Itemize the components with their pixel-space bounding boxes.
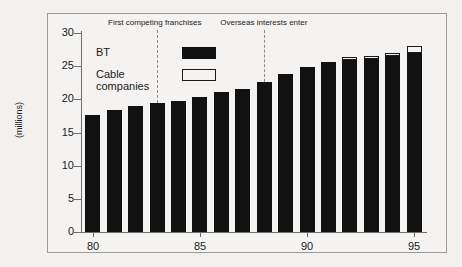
chart-figure: (millions) 051015202530 80859095 First c…	[0, 0, 462, 267]
y-axis-tick-label-wrap: 25	[34, 60, 74, 71]
bar-segment-bt	[300, 67, 315, 232]
x-axis-tick	[93, 232, 94, 237]
bar-segment-bt	[321, 62, 336, 232]
bar-segment-cable	[364, 56, 379, 59]
annotation-line	[264, 30, 265, 82]
y-axis-tick	[74, 232, 81, 233]
y-axis-tick	[74, 166, 81, 167]
bar-segment-bt	[171, 101, 186, 232]
bar-group	[364, 33, 379, 232]
bar-group	[278, 33, 293, 232]
bar-segment-bt	[257, 82, 272, 232]
bar-segment-cable	[385, 53, 400, 56]
y-axis-tick-label-wrap: 0	[34, 226, 74, 237]
y-axis-tick-label: 15	[42, 127, 74, 138]
chart-legend: BT Cable companies	[96, 46, 246, 90]
y-axis-tick-label: 20	[42, 93, 74, 104]
y-axis-tick-label: 0	[42, 226, 74, 237]
bar-segment-cable	[407, 46, 422, 53]
y-axis-tick-label-wrap: 30	[34, 27, 74, 38]
y-axis-tick	[74, 99, 81, 100]
y-axis-tick	[74, 66, 81, 67]
bar-segment-bt	[192, 97, 207, 232]
bar-segment-bt	[235, 89, 250, 232]
bar-segment-bt	[85, 115, 100, 232]
legend-item-cable: Cable companies	[96, 68, 246, 90]
y-axis-tick	[74, 199, 81, 200]
bar-segment-cable	[342, 57, 357, 60]
legend-swatch-bt	[182, 47, 216, 59]
bar-group	[321, 33, 336, 232]
bar-segment-bt	[385, 56, 400, 232]
annotation-label: Overseas interests enter	[220, 18, 307, 27]
annotation-label: First competing franchises	[108, 18, 201, 27]
x-axis-tick-label: 95	[394, 240, 434, 252]
legend-label-cable-line1: Cable	[96, 68, 125, 80]
y-axis-title: (millions)	[14, 102, 24, 138]
x-axis-tick-label: 85	[180, 240, 220, 252]
x-axis-tick	[414, 232, 415, 237]
y-axis-tick-label-wrap: 15	[34, 127, 74, 138]
y-axis-tick-label: 5	[42, 193, 74, 204]
x-axis-tick-label: 90	[287, 240, 327, 252]
y-axis-tick	[74, 133, 81, 134]
y-axis-tick	[74, 33, 81, 34]
bar-segment-bt	[107, 110, 122, 232]
legend-label-cable-line2: companies	[96, 80, 149, 92]
y-axis-tick-label-wrap: 20	[34, 93, 74, 104]
legend-item-bt: BT	[96, 46, 246, 68]
bar-segment-bt	[214, 92, 229, 232]
x-axis-tick	[307, 232, 308, 237]
bar-group	[385, 33, 400, 232]
bar-segment-bt	[342, 60, 357, 232]
bar-group	[407, 33, 422, 232]
x-axis-tick-label: 80	[73, 240, 113, 252]
x-axis-line	[81, 232, 427, 233]
y-axis-tick-label-wrap: 5	[34, 193, 74, 204]
y-axis-tick-label: 10	[42, 160, 74, 171]
legend-swatch-cable	[182, 69, 216, 81]
bar-group	[342, 33, 357, 232]
legend-label-bt: BT	[96, 46, 110, 58]
y-axis-tick-label: 30	[42, 27, 74, 38]
legend-label-cable: Cable companies	[96, 68, 149, 92]
y-axis-tick-label-wrap: 10	[34, 160, 74, 171]
bar-segment-bt	[150, 103, 165, 232]
bar-segment-bt	[278, 74, 293, 232]
x-axis-tick	[200, 232, 201, 237]
y-axis-tick-label: 25	[42, 60, 74, 71]
bar-segment-bt	[128, 106, 143, 232]
bar-group	[300, 33, 315, 232]
bar-segment-bt	[364, 59, 379, 232]
bar-segment-bt	[407, 53, 422, 232]
